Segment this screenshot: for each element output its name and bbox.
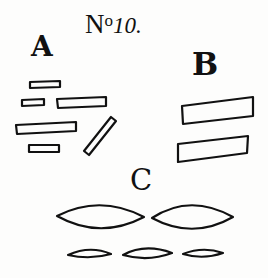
c-lens-large-right [152, 205, 233, 229]
c-lens-small-2 [123, 248, 172, 258]
engraving-plate: No10. A B C [0, 0, 268, 278]
group-a-shapes [16, 81, 116, 155]
a-bar-4 [16, 122, 76, 134]
a-bar-3 [57, 97, 106, 108]
a-bar-diagonal [84, 117, 116, 155]
a-bar-2 [22, 99, 44, 106]
c-lens-small-1 [68, 250, 111, 258]
group-c-shapes [57, 205, 233, 258]
c-lens-small-3 [183, 250, 223, 257]
c-lens-large-left [57, 205, 144, 228]
b-rect-2 [178, 136, 248, 162]
a-bar-1 [30, 81, 60, 88]
figure-shapes [0, 0, 268, 278]
group-b-shapes [178, 97, 253, 162]
b-rect-1 [182, 97, 253, 124]
a-bar-5 [29, 145, 59, 152]
